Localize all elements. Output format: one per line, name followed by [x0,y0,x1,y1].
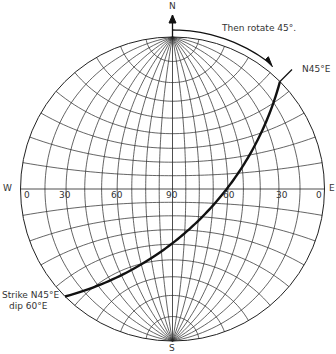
tick-w60: 60 [111,191,122,200]
tick-e0: 0 [316,191,322,200]
north-arrow-head [169,15,176,23]
plane-label-line2: dip 60°E [9,302,47,311]
west-label: W [3,184,12,193]
rotate-annotation: Then rotate 45°. [222,24,296,33]
tick-w30: 30 [59,191,70,200]
plane-label-line1: Strike N45°E [2,291,59,300]
rotation-arrow-head [265,57,272,67]
north-label: N [169,2,176,11]
stereonet-grid [0,0,336,354]
tick-w0: 0 [24,191,30,200]
south-label: S [169,344,175,353]
strike-leader-line [280,70,292,82]
tick-90: 90 [166,191,177,200]
east-label: E [329,184,335,193]
strike-direction-label: N45°E [302,65,330,74]
tick-e60: 60 [223,191,234,200]
tick-e30: 30 [276,191,287,200]
